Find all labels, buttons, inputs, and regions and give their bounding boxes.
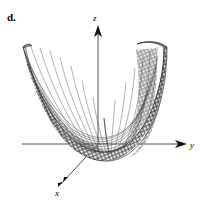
x-axis-label: x [55, 188, 59, 198]
surface-rim-right [137, 42, 167, 47]
z-axis-label: z [93, 13, 97, 23]
y-axis-label: y [190, 140, 194, 150]
surface-plot [0, 0, 202, 202]
paraboloid-surface [23, 42, 167, 161]
axis-arrowheads [58, 25, 187, 187]
x-axis-arrowhead [58, 177, 68, 187]
surface-rim-left-top [23, 44, 32, 48]
figure-panel: d. z y x [0, 0, 202, 202]
panel-label: d. [7, 11, 16, 24]
